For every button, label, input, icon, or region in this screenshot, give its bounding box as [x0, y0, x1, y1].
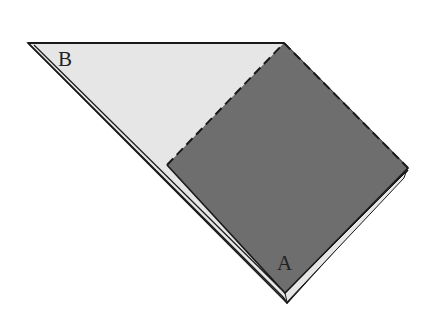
- label-b: B: [58, 47, 72, 71]
- folding-diagram: B A: [0, 0, 426, 321]
- label-a: A: [277, 251, 293, 275]
